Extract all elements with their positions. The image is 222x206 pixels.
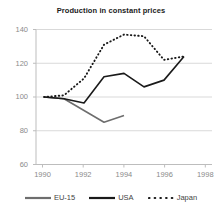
x-tick-1994: 1994 [104,170,144,179]
x-tick-1996: 1996 [145,170,185,179]
y-tick-120: 120 [4,59,28,68]
x-tick-1990: 1990 [23,170,63,179]
series-line-japan [44,35,184,97]
legend-label-japan: Japan [177,193,197,202]
y-tick-60: 60 [4,160,28,169]
y-tick-80: 80 [4,126,28,135]
chart-container: Production in constant prices [0,0,222,206]
legend-item-japan[interactable]: Japan [148,193,197,202]
legend-swatch-usa [89,194,115,202]
legend-swatch-eu-15 [25,194,51,202]
legend-label-usa: USA [118,193,133,202]
y-tick-100: 100 [4,92,28,101]
chart-legend: EU-15 USA Japan [0,193,222,202]
y-tick-140: 140 [4,25,28,34]
legend-item-eu-15[interactable]: EU-15 [25,193,75,202]
x-tick-1998: 1998 [185,170,222,179]
legend-item-usa[interactable]: USA [89,193,133,202]
x-tick-1992: 1992 [63,170,103,179]
series-line-eu-15 [44,97,124,122]
legend-swatch-japan [148,194,174,202]
legend-label-eu-15: EU-15 [54,193,75,202]
